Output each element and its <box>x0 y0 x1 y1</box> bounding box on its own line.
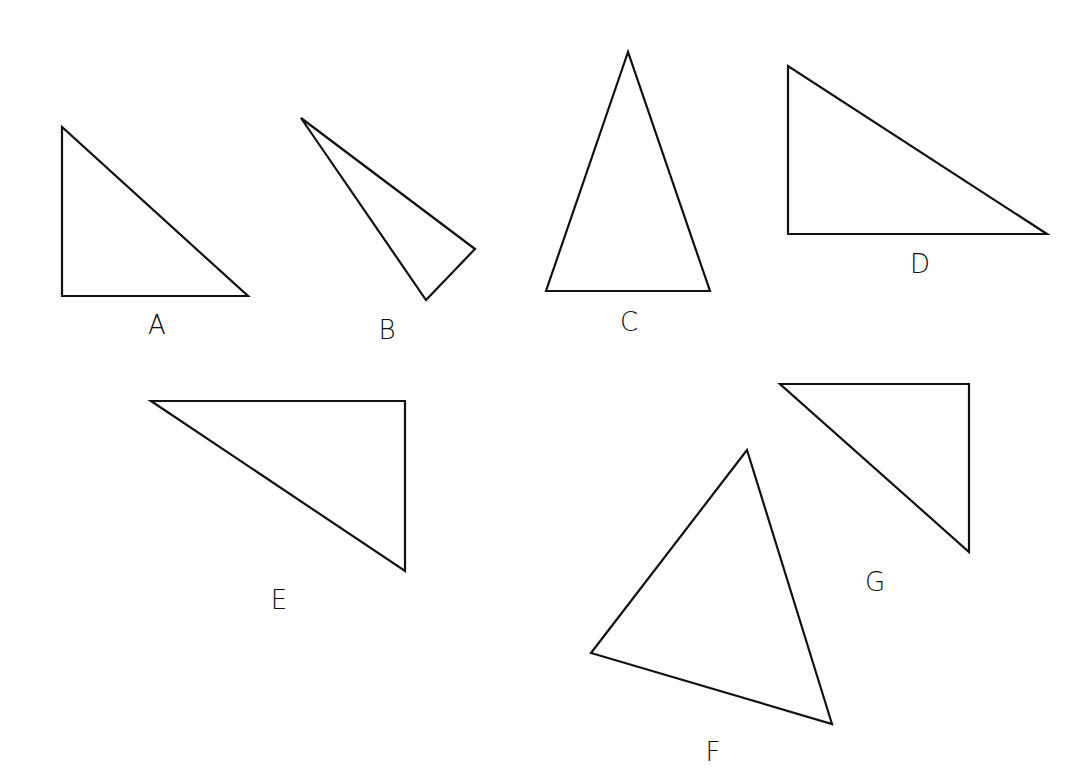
label-c: C <box>620 309 638 335</box>
triangle-e <box>151 401 405 571</box>
label-d: D <box>910 251 930 277</box>
triangle-d <box>788 66 1047 234</box>
label-b: B <box>378 317 395 343</box>
label-a: A <box>148 312 166 338</box>
triangle-diagram <box>0 0 1092 776</box>
triangle-c <box>546 52 710 291</box>
triangle-f <box>591 450 832 724</box>
label-e: E <box>271 587 287 613</box>
label-f: F <box>706 739 721 765</box>
label-g: G <box>865 569 885 595</box>
triangle-a <box>62 127 248 296</box>
triangle-b <box>301 118 475 300</box>
triangle-g <box>780 384 969 552</box>
